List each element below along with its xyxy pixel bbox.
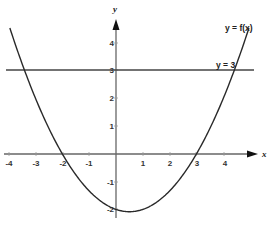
- svg-text:-3: -3: [32, 159, 40, 168]
- svg-text:4: 4: [110, 39, 115, 48]
- curve-label: y = f(x): [225, 23, 253, 33]
- svg-text:1: 1: [110, 122, 115, 131]
- svg-text:2: 2: [168, 159, 173, 168]
- line-label: y = 3: [216, 60, 235, 70]
- function-graph: x y -4 -3 -2 -1 1 2 3 4 4 3 2 1 -1: [0, 0, 268, 227]
- y-tick-labels: 4 3 2 1 -1 -2: [107, 39, 115, 214]
- svg-text:-4: -4: [5, 159, 13, 168]
- svg-text:1: 1: [141, 159, 146, 168]
- svg-text:2: 2: [110, 94, 115, 103]
- y-axis-arrow-icon: [113, 19, 120, 30]
- svg-text:4: 4: [223, 159, 228, 168]
- curve-f-of-x: [10, 28, 249, 212]
- svg-text:3: 3: [195, 159, 200, 168]
- svg-text:-1: -1: [107, 178, 115, 187]
- x-axis-label: x: [261, 149, 267, 159]
- svg-text:-1: -1: [85, 159, 93, 168]
- x-axis-arrow-icon: [247, 151, 258, 158]
- y-axis-label: y: [112, 4, 118, 14]
